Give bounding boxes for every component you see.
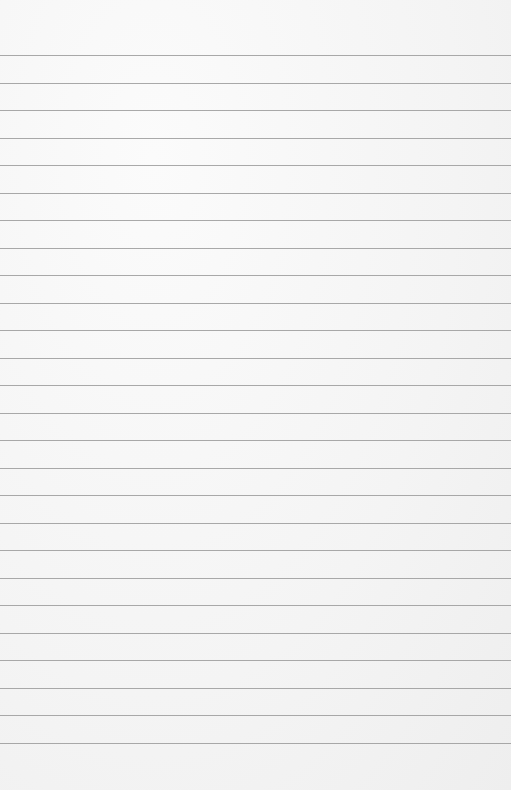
ruled-line xyxy=(0,385,511,386)
ruled-line xyxy=(0,110,511,111)
ruled-line xyxy=(0,248,511,249)
ruled-line xyxy=(0,495,511,496)
ruled-line xyxy=(0,138,511,139)
ruled-line xyxy=(0,358,511,359)
ruled-line xyxy=(0,440,511,441)
ruled-line xyxy=(0,165,511,166)
ruled-line xyxy=(0,468,511,469)
ruled-line xyxy=(0,743,511,744)
ruled-line xyxy=(0,330,511,331)
ruled-line xyxy=(0,303,511,304)
ruled-line xyxy=(0,220,511,221)
ruled-line xyxy=(0,660,511,661)
ruled-line xyxy=(0,523,511,524)
ruled-line xyxy=(0,413,511,414)
ruled-line xyxy=(0,83,511,84)
ruled-line xyxy=(0,578,511,579)
ruled-line xyxy=(0,688,511,689)
ruled-line xyxy=(0,193,511,194)
ruled-line xyxy=(0,55,511,56)
lined-paper xyxy=(0,0,511,790)
ruled-line xyxy=(0,715,511,716)
ruled-line xyxy=(0,633,511,634)
ruled-line xyxy=(0,550,511,551)
ruled-line xyxy=(0,605,511,606)
ruled-line xyxy=(0,275,511,276)
